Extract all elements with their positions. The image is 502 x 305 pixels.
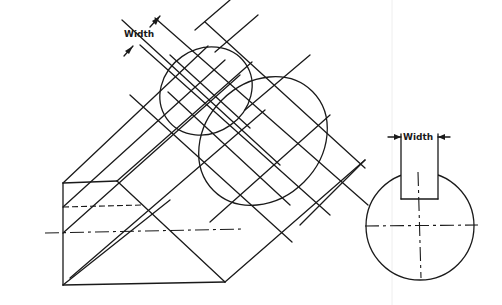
technical-drawing: Width Width	[0, 0, 502, 305]
end-view: Width	[365, 132, 478, 280]
isometric-view: Width	[45, 0, 368, 285]
base-block	[63, 181, 225, 285]
hidden-line	[63, 205, 142, 207]
width-label-end: Width	[403, 132, 433, 142]
width-label-iso: Width	[124, 29, 154, 39]
center-line	[45, 229, 243, 233]
horizontal-center-line	[365, 225, 478, 226]
projection-lines-rising	[63, 0, 365, 282]
small-ellipse	[143, 29, 270, 153]
large-ellipse	[172, 50, 353, 231]
width-dimension-end: Width	[388, 132, 450, 142]
